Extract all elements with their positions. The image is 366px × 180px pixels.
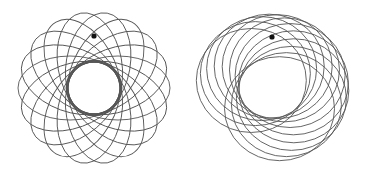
orbit-circle — [225, 57, 335, 161]
orbiting-body-dot — [269, 34, 274, 39]
orbit-circle — [200, 22, 310, 126]
orbit-diagrams — [0, 0, 366, 180]
right-rosette-diagram — [0, 0, 366, 180]
orbit-circle — [214, 14, 324, 118]
orbit-circle — [222, 15, 332, 119]
